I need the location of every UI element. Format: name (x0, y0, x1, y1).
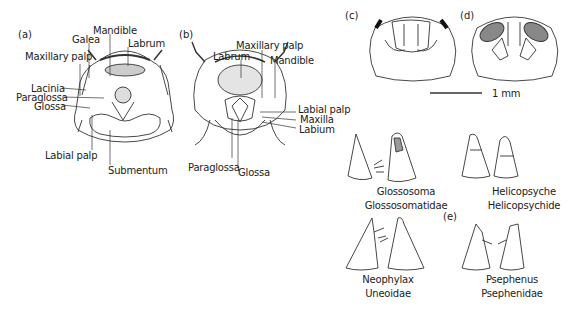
panel-a-tag: (a) (18, 29, 32, 40)
taxon-caption-psephenus: Psephenus Psephenidae (462, 274, 562, 299)
genus-name: Glossosoma (356, 186, 456, 197)
taxon-caption-glossosoma: Glossosoma Glossosomatidae (356, 186, 456, 211)
taxon-caption-helicopsyche: Helicopsyche Helicopsychide (474, 186, 574, 211)
panel-e-psephenus-drawing (462, 224, 524, 270)
panel-e-helicopsyche-drawing (462, 134, 518, 178)
panel-b-tag: (b) (179, 29, 193, 40)
label-a-labrum: Labrum (128, 38, 165, 49)
label-b-labrum: Labrum (213, 51, 250, 62)
family-name: Glossosomatidae (356, 200, 456, 211)
scale-bar-label: 1 mm (492, 88, 520, 99)
label-a-galea: Galea (72, 34, 100, 45)
taxon-caption-neophylax: Neophylax Uneoidae (338, 274, 438, 299)
panel-e-tag: (e) (443, 211, 457, 222)
family-name: Psephenidae (462, 288, 562, 299)
panel-e-neophylax-drawing (346, 218, 424, 270)
panel-c-tag: (c) (345, 10, 358, 21)
genus-name: Neophylax (338, 274, 438, 285)
label-a-maxillary-palp: Maxillary palp (25, 51, 92, 62)
panel-e-glossosoma-drawing (348, 133, 416, 182)
panel-d-tag: (d) (460, 10, 474, 21)
label-b-labium: Labium (299, 124, 335, 135)
label-b-paraglossa: Paraglossa (188, 162, 240, 173)
panel-c-drawing (370, 17, 456, 81)
panel-d-drawing (472, 17, 558, 81)
label-a-submentum: Submentum (108, 165, 167, 176)
label-a-glossa: Glossa (34, 101, 66, 112)
label-b-maxillary-palp: Maxillary palp (236, 40, 303, 51)
label-b-mandible: Mandible (270, 55, 314, 66)
label-b-glossa: Glossa (238, 167, 270, 178)
genus-name: Helicopsyche (474, 186, 574, 197)
label-a-labial-palp: Labial palp (45, 150, 97, 161)
family-name: Helicopsychide (474, 200, 574, 211)
genus-name: Psephenus (462, 274, 562, 285)
family-name: Uneoidae (338, 288, 438, 299)
